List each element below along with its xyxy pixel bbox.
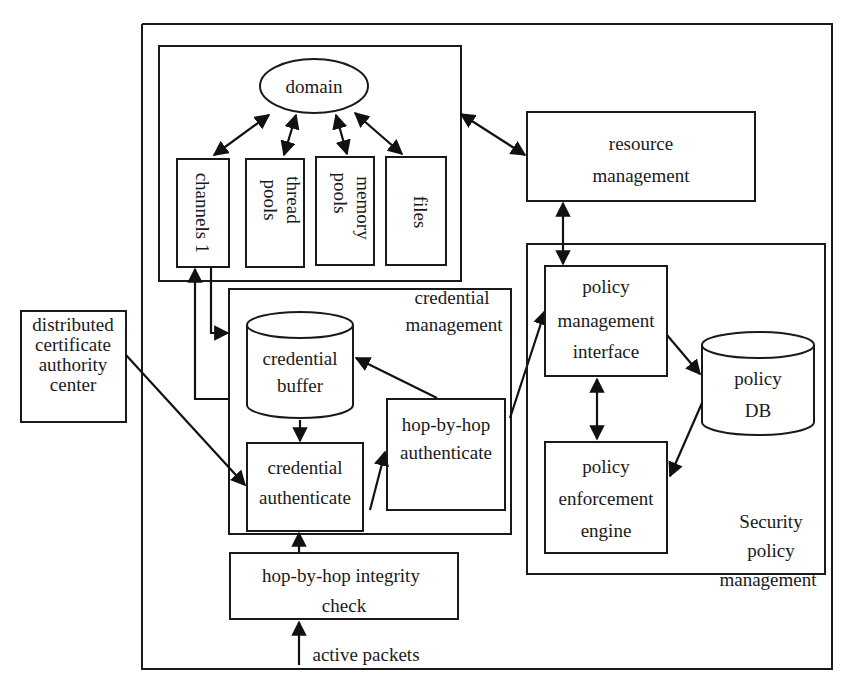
credential-management-label: credential [415, 287, 490, 308]
active-packets-label: active packets [312, 644, 419, 665]
memory-pools-node: memory pools [316, 157, 374, 265]
distributed-ca-node: distributed certificate authority center [21, 311, 126, 422]
svg-text:distributed: distributed [32, 314, 114, 335]
credential-authenticate-node: credential authenticate [247, 443, 363, 531]
svg-text:policy: policy [582, 456, 630, 477]
svg-text:files: files [410, 196, 431, 229]
svg-text:management: management [592, 165, 690, 186]
svg-text:management: management [557, 310, 655, 331]
domain-node: domain [260, 59, 368, 113]
arrow-db-to-enforcement [670, 403, 702, 476]
arrow-interface-to-db [667, 335, 700, 374]
svg-text:thread: thread [283, 176, 304, 224]
arrow-channels-to-credential [211, 267, 228, 333]
hop-by-hop-authenticate-node: hop-by-hop authenticate [387, 399, 505, 510]
policy-enforcement-engine-node: policy enforcement engine [545, 442, 667, 553]
svg-text:check: check [322, 595, 367, 616]
svg-text:center: center [50, 374, 97, 395]
arrow-hop-to-buffer [356, 358, 437, 398]
policy-management-interface-node: policy management interface [545, 266, 667, 376]
svg-text:authority: authority [39, 354, 108, 375]
architecture-diagram: domain channels 1 thread pools memory po… [0, 0, 853, 690]
credential-management-label-2: management [405, 314, 503, 335]
security-policy-label-3: management [719, 569, 817, 590]
arrow-domain-channels [214, 115, 269, 155]
channels-node: channels 1 [177, 159, 229, 267]
security-policy-label-1: Security [739, 511, 803, 532]
arrow-domain-memory [336, 115, 347, 154]
svg-text:domain: domain [286, 76, 343, 97]
svg-text:hop-by-hop: hop-by-hop [402, 414, 491, 435]
security-policy-label-2: policy [747, 540, 795, 561]
svg-text:certificate: certificate [35, 334, 111, 355]
svg-text:memory: memory [353, 176, 374, 240]
arrow-domain-files [355, 113, 402, 154]
svg-text:credential: credential [263, 348, 338, 369]
resource-management-node: resource management [527, 112, 755, 201]
svg-text:resource: resource [609, 133, 673, 154]
integrity-check-node: hop-by-hop integrity check [230, 553, 458, 619]
arrow-domain-resource [461, 114, 525, 155]
thread-pools-node: thread pools [246, 159, 304, 267]
svg-text:pools: pools [260, 179, 281, 220]
svg-text:buffer: buffer [277, 375, 324, 396]
arrow-ca-to-credential-auth [126, 355, 245, 485]
credential-buffer-node: credential buffer [247, 312, 353, 418]
svg-text:DB: DB [745, 400, 771, 421]
policy-db-node: policy DB [702, 332, 814, 435]
svg-text:channels 1: channels 1 [192, 173, 213, 254]
files-node: files [386, 157, 446, 265]
svg-text:interface: interface [573, 341, 639, 362]
svg-text:enforcement: enforcement [559, 488, 655, 509]
svg-text:policy: policy [582, 276, 630, 297]
arrow-domain-thread [284, 115, 296, 155]
svg-text:engine: engine [581, 520, 632, 541]
svg-text:pools: pools [330, 172, 351, 213]
svg-text:policy: policy [734, 368, 782, 389]
svg-text:authenticate: authenticate [259, 487, 351, 508]
svg-text:credential: credential [268, 457, 343, 478]
svg-text:authenticate: authenticate [400, 442, 492, 463]
arrow-auth-to-hop [370, 452, 385, 510]
svg-text:hop-by-hop integrity: hop-by-hop integrity [262, 565, 420, 586]
